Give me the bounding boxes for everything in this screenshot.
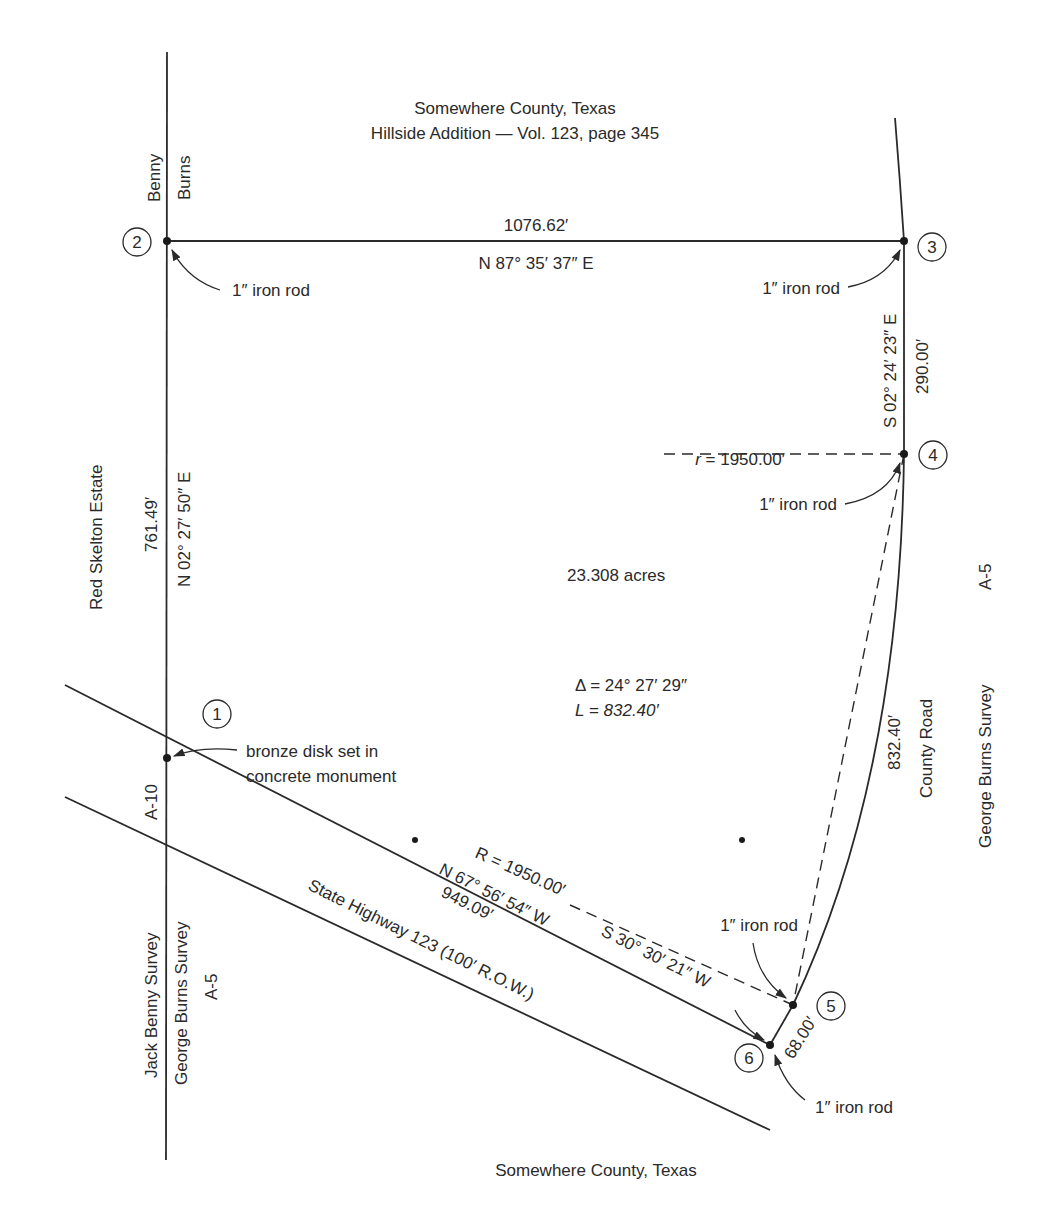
short-distance: 68.00′	[780, 1013, 820, 1062]
monument-label-point-5: 1″ iron rod	[720, 916, 798, 935]
point-badge-3: 3	[918, 233, 946, 261]
adjoiner-county-road: County Road	[917, 699, 936, 798]
monument-label-point-6: 1″ iron rod	[815, 1098, 893, 1117]
header-county: Somewhere County, Texas	[414, 99, 616, 118]
adjoiner-burns: Burns	[175, 156, 194, 200]
east-upper-bearing: S 02° 24′ 23″ E	[881, 314, 900, 428]
adjoiner-a10: A-10	[142, 784, 161, 820]
reference-dot-right	[739, 837, 745, 843]
point-badge-2: 2	[123, 228, 151, 256]
area-label: 23.308 acres	[567, 566, 665, 585]
east-upper-distance: 290.00′	[913, 339, 932, 394]
leader-arrow-point-2	[172, 250, 220, 290]
curve-delta: Δ = 24° 27′ 29″	[575, 676, 687, 695]
survey-point-4	[900, 450, 908, 458]
survey-point-2	[163, 237, 171, 245]
survey-point-1	[163, 754, 171, 762]
svg-text:2: 2	[132, 233, 141, 252]
west-bearing: N 02° 27′ 50″ E	[175, 472, 194, 587]
curve-radius-small: r = 1950.00′	[695, 450, 785, 469]
monument-label-point-4: 1″ iron rod	[759, 495, 837, 514]
reference-dot-left	[412, 837, 418, 843]
leader-arrow-point-3	[848, 250, 900, 287]
header-addition: Hillside Addition — Vol. 123, page 345	[371, 124, 659, 143]
svg-text:4: 4	[928, 446, 937, 465]
monument-label-point-1-line1: bronze disk set in	[246, 742, 378, 761]
leader-arrow-point-4	[845, 463, 900, 504]
monument-label-point-3: 1″ iron rod	[762, 279, 840, 298]
adjoiner-benny: Benny	[145, 153, 164, 202]
footer-county: Somewhere County, Texas	[495, 1161, 697, 1180]
svg-text:6: 6	[744, 1049, 753, 1068]
boundary-south-highway-row	[65, 685, 770, 1045]
survey-plat: 2 3 4 1 5 6 Somewhere County, Texas Hill…	[0, 0, 1049, 1214]
point-badge-5: 5	[817, 992, 845, 1020]
north-bearing: N 87° 35′ 37″ E	[478, 254, 593, 273]
svg-text:1: 1	[212, 705, 221, 724]
west-distance: 761.49′	[142, 497, 161, 552]
svg-text:5: 5	[826, 997, 835, 1016]
point-badge-1: 1	[203, 700, 231, 728]
adjoiner-a5-right: A-5	[976, 564, 995, 590]
leader-arrow-point-6	[775, 1055, 805, 1100]
monument-label-point-2: 1″ iron rod	[232, 281, 310, 300]
leader-arrow-point-1	[174, 749, 237, 756]
svg-text:3: 3	[927, 238, 936, 257]
chord-bearing: S 30° 30′ 21″ W	[598, 922, 713, 992]
adjoiner-george-burns-survey-right: George Burns Survey	[976, 684, 995, 848]
survey-point-3	[900, 237, 908, 245]
survey-point-6	[766, 1041, 774, 1049]
north-distance: 1076.62′	[504, 216, 569, 235]
survey-line-west	[166, 52, 167, 1160]
curve-arc-distance: 832.40′	[885, 715, 904, 770]
point-badge-4: 4	[919, 441, 947, 469]
curve-length: L = 832.40′	[575, 701, 660, 720]
monument-label-point-1-line2: concrete monument	[246, 767, 397, 786]
survey-line-east-extension	[895, 118, 904, 241]
adjoiner-a5-left: A-5	[202, 974, 221, 1000]
point-badge-6: 6	[735, 1044, 763, 1072]
adjoiner-red-skelton-estate: Red Skelton Estate	[87, 464, 106, 610]
adjoiner-jack-benny-survey: Jack Benny Survey	[142, 932, 161, 1078]
survey-point-5	[789, 1001, 797, 1009]
adjoiner-george-burns-survey-left: George Burns Survey	[172, 921, 191, 1085]
